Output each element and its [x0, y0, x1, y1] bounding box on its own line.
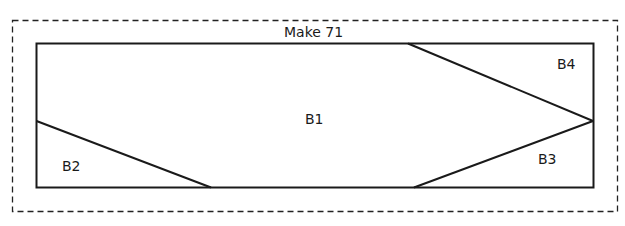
piece-label-b3: B3: [538, 152, 557, 166]
seam-line-b2: [37, 121, 212, 188]
piece-label-b4: B4: [557, 57, 576, 71]
piece-label-b2: B2: [62, 159, 81, 173]
piece-label-b1: B1: [305, 112, 324, 126]
diagram-title: Make 71: [284, 25, 343, 39]
seam-line-b3: [414, 121, 593, 188]
